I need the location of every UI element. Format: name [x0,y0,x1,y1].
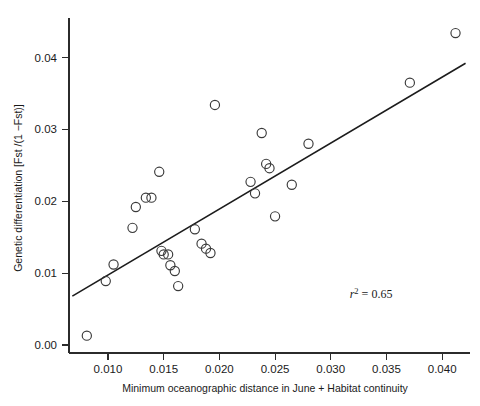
data-point-marker [246,177,255,186]
x-axis-title: Minimum oceanographic distance in June +… [122,382,408,394]
x-tick-label: 0.020 [205,363,234,375]
data-point-marker [155,167,164,176]
regression-line-layer [72,63,465,296]
data-point-marker [101,276,110,285]
data-point-marker [174,281,183,290]
data-point-marker [257,128,266,137]
data-point-marker [304,139,313,148]
regression-line [72,63,465,296]
x-tick-label: 0.035 [372,363,401,375]
y-tick-label: 0.04 [35,52,58,64]
y-tick-label: 0.00 [35,339,57,351]
x-tick-label: 0.040 [428,363,457,375]
data-point-marker [190,225,199,234]
annotation-layer: r2 = 0.65 [350,286,393,301]
x-tick-layer: 0.0100.0150.0200.0250.0300.0350.040 [94,353,457,375]
data-point-marker [250,189,259,198]
y-axis-title: Genetic differentiation [Fst /(1 −Fst)] [12,104,24,272]
data-point-marker [141,193,150,202]
data-point-marker [109,260,118,269]
x-tick-label: 0.030 [316,363,345,375]
data-point-marker [270,212,279,221]
scatter-plot-figure: 0.000.010.020.030.04 0.0100.0150.0200.02… [0,0,480,406]
x-tick-label: 0.025 [261,363,290,375]
y-tick-layer: 0.000.010.020.030.04 [35,52,69,351]
data-points-layer [82,28,460,340]
y-tick-label: 0.03 [35,123,57,135]
r-squared-annotation: r2 = 0.65 [350,286,393,301]
r-value: 0.65 [371,287,392,301]
data-point-marker [131,202,140,211]
x-tick-label: 0.015 [149,363,178,375]
data-point-marker [210,100,219,109]
plot-canvas: 0.000.010.020.030.04 0.0100.0150.0200.02… [0,0,480,406]
x-tick-label: 0.010 [94,363,123,375]
data-point-marker [405,78,414,87]
data-point-marker [147,193,156,202]
y-tick-label: 0.01 [35,267,57,279]
data-point-marker [451,28,460,37]
data-point-marker [82,331,91,340]
data-point-marker [287,180,296,189]
data-point-marker [128,223,137,232]
y-tick-label: 0.02 [35,195,57,207]
axis-layer [69,18,470,353]
r-equals: = [359,287,372,301]
